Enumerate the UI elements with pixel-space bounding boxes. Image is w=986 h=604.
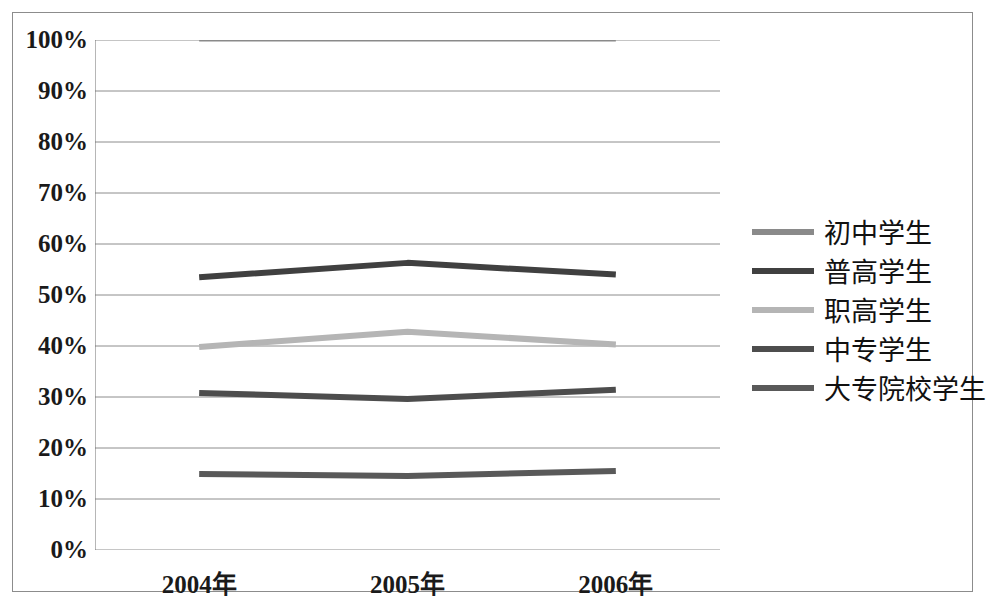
legend-item-label: 初中学生	[824, 212, 932, 251]
y-axis-tick-label: 20%	[38, 435, 88, 460]
legend-item[interactable]: 大专院校学生	[752, 368, 977, 407]
x-axis-tick-label: 2004年	[95, 572, 303, 597]
legend-item-label: 大专院校学生	[824, 368, 986, 407]
series-line	[199, 390, 616, 399]
y-axis-tick-label: 80%	[38, 129, 88, 154]
x-axis-tick-label: 2006年	[512, 572, 720, 597]
legend-item[interactable]: 中专学生	[752, 329, 977, 368]
y-axis-tick-label: 60%	[38, 231, 88, 256]
x-axis: 2004年2005年2006年	[95, 560, 720, 600]
legend-item[interactable]: 初中学生	[752, 212, 977, 251]
y-axis-tick-label: 90%	[38, 78, 88, 103]
y-axis: 0%10%20%30%40%50%60%70%80%90%100%	[0, 0, 88, 604]
chart-legend: 初中学生普高学生职高学生中专学生大专院校学生	[752, 212, 977, 407]
series-line	[199, 332, 616, 347]
legend-item[interactable]: 职高学生	[752, 290, 977, 329]
legend-swatch-icon	[752, 346, 814, 352]
series-lines	[199, 40, 616, 476]
series-line	[199, 471, 616, 476]
legend-swatch-icon	[752, 307, 814, 313]
legend-item-label: 中专学生	[824, 329, 932, 368]
legend-item-label: 职高学生	[824, 290, 932, 329]
legend-swatch-icon	[752, 268, 814, 274]
plot-svg	[95, 40, 720, 550]
legend-item-label: 普高学生	[824, 251, 932, 290]
y-axis-tick-label: 50%	[38, 282, 88, 307]
legend-swatch-icon	[752, 385, 814, 391]
legend-swatch-icon	[752, 229, 814, 235]
y-axis-tick-label: 10%	[38, 486, 88, 511]
y-axis-tick-label: 40%	[38, 333, 88, 358]
y-axis-tick-label: 70%	[38, 180, 88, 205]
legend-item[interactable]: 普高学生	[752, 251, 977, 290]
plot-area	[95, 40, 720, 550]
y-axis-tick-label: 30%	[38, 384, 88, 409]
y-axis-tick-label: 0%	[51, 537, 89, 562]
series-line	[199, 263, 616, 277]
x-axis-tick-label: 2005年	[303, 572, 511, 597]
y-axis-tick-label: 100%	[26, 27, 89, 52]
